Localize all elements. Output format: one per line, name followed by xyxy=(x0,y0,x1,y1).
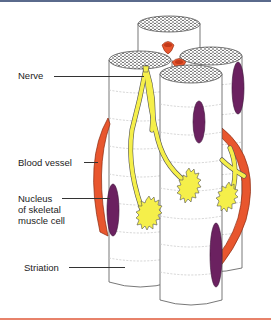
label-striation: Striation xyxy=(24,262,59,273)
leader-blood-vessel xyxy=(84,162,98,163)
label-nerve: Nerve xyxy=(18,70,43,81)
label-nucleus-line2: of skeletal xyxy=(18,204,61,215)
leader-nerve xyxy=(54,76,144,77)
bottom-border-rule xyxy=(0,318,271,320)
label-nucleus-line1: Nucleus xyxy=(18,193,52,204)
leader-nucleus xyxy=(62,198,110,199)
leader-striation xyxy=(69,267,125,268)
label-blood-vessel: Blood vessel xyxy=(18,157,72,168)
label-nucleus-line3: muscle cell xyxy=(18,215,65,226)
